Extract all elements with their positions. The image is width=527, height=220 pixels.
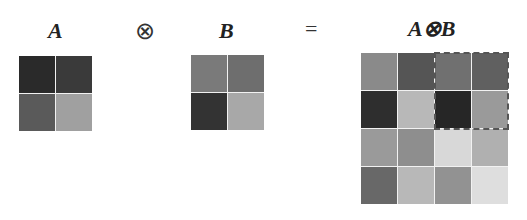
matrix-b-cell [228,55,264,92]
matrix-a-cell [19,56,55,93]
matrix-result-cell [361,167,397,204]
matrix-result-cell [361,53,397,90]
matrix-result-cell [435,167,471,204]
matrix-a-cell [56,56,92,93]
label-a: A [48,20,63,42]
equals-sign: = [305,18,317,40]
matrix-b-cell [191,93,227,130]
matrix-b [191,55,264,130]
matrix-a-cell [19,94,55,131]
matrix-result-cell [435,129,471,166]
matrix-result-cell [398,129,434,166]
matrix-result-cell [398,53,434,90]
matrix-result-cell [472,129,508,166]
kronecker-operator: ⊗ [135,19,155,43]
matrix-result-cell [472,167,508,204]
matrix-b-cell [191,55,227,92]
matrix-result-cell [361,91,397,128]
label-result: A⊗B [408,18,455,40]
matrix-a [19,56,92,131]
matrix-b-cell [228,93,264,130]
matrix-a-cell [56,94,92,131]
label-b: B [219,20,234,42]
matrix-result-cell [398,91,434,128]
matrix-result-cell [398,167,434,204]
matrix-result-cell [361,129,397,166]
highlight-block-dashed [434,52,509,130]
